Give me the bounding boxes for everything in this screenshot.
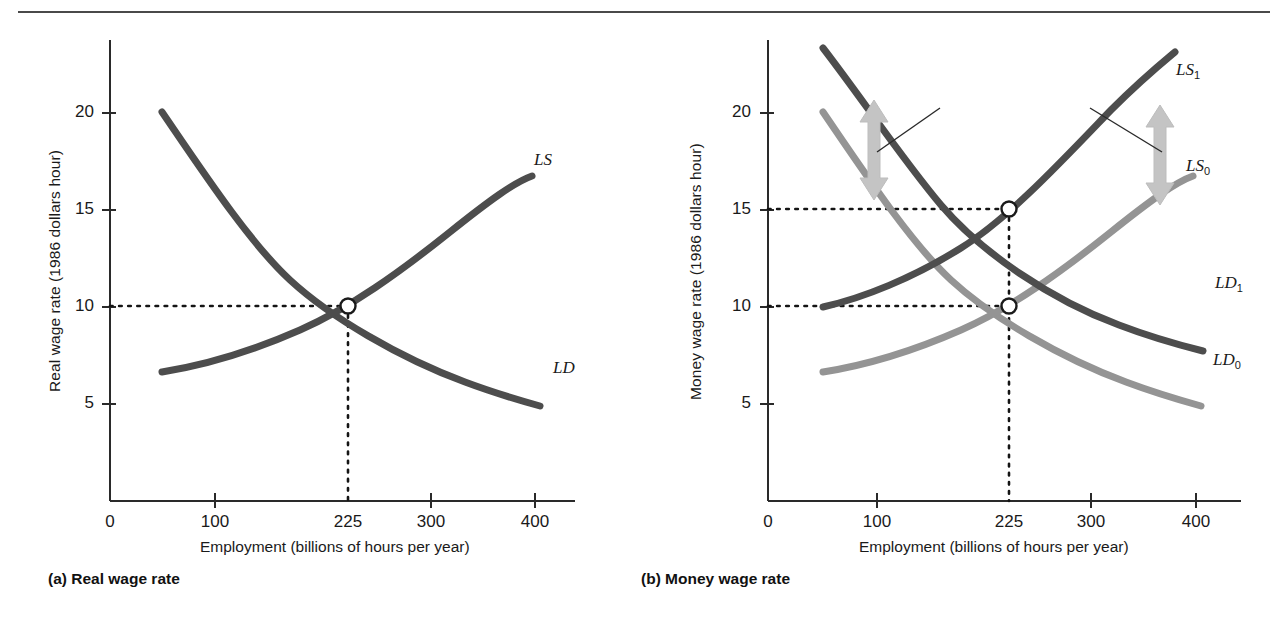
panel-real-wage-rate: Real wage rate (1986 dollars hour) 20 15… <box>0 0 641 625</box>
x-axis-title-b: Employment (billions of hours per year) <box>859 538 1129 556</box>
right-shift-arrow-b <box>1146 105 1174 205</box>
y-tick-label-20-a: 20 <box>54 102 94 122</box>
x-tick-label-100-a: 100 <box>188 512 242 532</box>
y-tick-label-10-b: 10 <box>711 296 751 316</box>
curve-label-ls0-b: LS0 <box>1186 156 1210 177</box>
y-axis-title-b: Money wage rate (1986 dollars hour) <box>687 143 705 400</box>
y-tick-label-5-b: 5 <box>711 393 751 413</box>
x-tick-label-0-a: 0 <box>88 512 132 532</box>
curve-label-ls1-b: LS1 <box>1176 60 1200 81</box>
panel-money-wage-rate: A 50-percent increase in price shifts bo… <box>641 0 1282 625</box>
x-tick-label-0-b: 0 <box>746 512 790 532</box>
x-tick-label-400-a: 400 <box>508 512 562 532</box>
curve-label-ld0-b: LD0 <box>1213 350 1241 371</box>
curve-label-ls-a: LS <box>534 150 552 170</box>
y-axis-title-a: Real wage rate (1986 dollars hour) <box>46 150 64 392</box>
x-tick-label-225-a: 225 <box>321 512 375 532</box>
panel-caption-b: (b) Money wage rate <box>641 570 790 588</box>
y-tick-label-15-b: 15 <box>711 199 751 219</box>
equilibrium-marker-low-b <box>1002 299 1017 314</box>
equilibrium-marker-a <box>341 299 356 314</box>
x-axis-title-a: Employment (billions of hours per year) <box>200 538 470 556</box>
panel-caption-a: (a) Real wage rate <box>48 570 180 588</box>
equilibrium-marker-high-b <box>1002 202 1017 217</box>
x-tick-label-100-b: 100 <box>850 512 904 532</box>
y-tick-label-20-b: 20 <box>711 102 751 122</box>
annotation-leader-right-b <box>1090 108 1162 152</box>
y-tick-label-5-a: 5 <box>54 393 94 413</box>
x-tick-label-400-b: 400 <box>1169 512 1223 532</box>
x-tick-label-225-b: 225 <box>982 512 1036 532</box>
figure-root: Real wage rate (1986 dollars hour) 20 15… <box>0 0 1282 625</box>
x-tick-label-300-b: 300 <box>1064 512 1118 532</box>
left-shift-arrow-b <box>860 100 888 200</box>
y-tick-label-10-a: 10 <box>54 296 94 316</box>
curve-label-ld-a: LD <box>553 358 575 378</box>
x-tick-label-300-a: 300 <box>404 512 458 532</box>
curve-label-ld1-b: LD1 <box>1215 273 1243 294</box>
y-tick-label-15-a: 15 <box>54 199 94 219</box>
